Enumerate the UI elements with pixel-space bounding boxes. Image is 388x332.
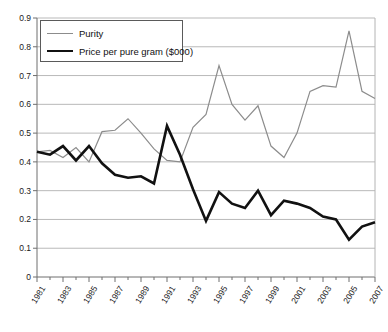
chart-container: 00.10.20.30.40.50.60.70.80.9 19811983198… [0, 0, 388, 332]
legend-label-purity: Purity [79, 28, 103, 39]
y-tick-label: 0.2 [1, 214, 31, 224]
x-axis-ticks [37, 277, 375, 282]
y-tick-label: 0 [1, 272, 31, 282]
y-tick-label: 0.3 [1, 186, 31, 196]
y-tick-label: 0.8 [1, 42, 31, 52]
y-tick-label: 0.7 [1, 71, 31, 81]
y-tick-label: 0.9 [1, 13, 31, 23]
chart-legend: Purity Price per pure gram ($000) [40, 20, 183, 62]
legend-swatch-price [47, 50, 73, 52]
data-series-group [37, 31, 375, 240]
legend-item-purity: Purity [47, 26, 103, 40]
y-tick-label: 0.4 [1, 157, 31, 167]
y-axis-ticks [33, 18, 37, 277]
legend-label-price: Price per pure gram ($000) [79, 46, 193, 57]
legend-swatch-purity [47, 33, 73, 34]
y-tick-label: 0.6 [1, 99, 31, 109]
y-tick-label: 0.1 [1, 243, 31, 253]
series-line-price [37, 126, 375, 240]
y-tick-label: 0.5 [1, 128, 31, 138]
legend-item-price: Price per pure gram ($000) [47, 44, 193, 58]
